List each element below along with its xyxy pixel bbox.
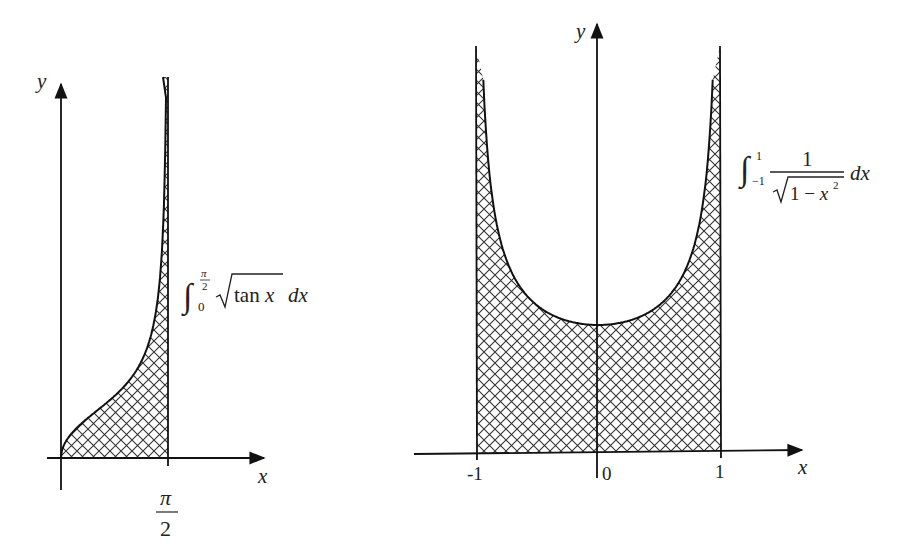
left-tick-pi: π bbox=[160, 485, 172, 510]
left-tick-two: 2 bbox=[160, 516, 171, 541]
right-tick-one: 1 bbox=[715, 461, 725, 482]
right-boundary-left bbox=[476, 46, 477, 460]
right-boundary-right bbox=[720, 46, 721, 458]
lower-limit: −1 bbox=[752, 174, 765, 188]
numerator: 1 bbox=[802, 147, 813, 171]
differential: dx bbox=[850, 161, 871, 185]
right-plot: y x -1 0 1 ∫ 1 −1 1 1 − x 2 dx bbox=[414, 19, 871, 484]
right-y-label: y bbox=[574, 19, 586, 43]
differential: dx bbox=[288, 283, 309, 307]
integral-sign: ∫ bbox=[738, 150, 752, 190]
right-shaded-region bbox=[476, 46, 721, 454]
upper-limit-two: 2 bbox=[202, 280, 208, 292]
exponent: 2 bbox=[833, 179, 839, 191]
upper-limit-pi: π bbox=[201, 267, 207, 279]
right-tick-zero: 0 bbox=[602, 463, 612, 484]
right-formula: ∫ 1 −1 1 1 − x 2 dx bbox=[738, 147, 871, 204]
denominator: 1 − x bbox=[790, 183, 829, 204]
right-tick-neg1: -1 bbox=[467, 463, 483, 484]
integral-sign: ∫ bbox=[181, 277, 195, 317]
right-x-label: x bbox=[797, 455, 808, 479]
left-plot: y x π 2 ∫ π 2 0 tan x dx bbox=[35, 69, 309, 541]
lower-limit-zero: 0 bbox=[198, 299, 205, 314]
left-y-label: y bbox=[35, 69, 47, 93]
radicand: tan x bbox=[234, 283, 275, 307]
left-formula: ∫ π 2 0 tan x dx bbox=[181, 267, 309, 317]
left-x-label: x bbox=[257, 464, 268, 488]
integral-diagrams: y x π 2 ∫ π 2 0 tan x dx y x bbox=[0, 0, 922, 553]
upper-limit: 1 bbox=[756, 149, 762, 163]
left-shaded-region bbox=[61, 77, 168, 458]
